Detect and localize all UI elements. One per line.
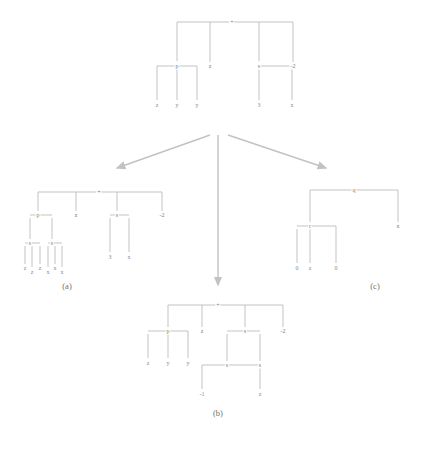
tree-a-node-s: s bbox=[115, 212, 119, 219]
tree-a-node-p: p bbox=[36, 212, 41, 219]
source-leaf: y bbox=[176, 102, 179, 109]
caption-c: (c) bbox=[370, 281, 379, 291]
tree-b-leaf: y bbox=[167, 360, 170, 367]
tree-c-edges bbox=[297, 190, 398, 263]
tree-c-leaf: 0 bbox=[296, 265, 299, 272]
source-node-p: p bbox=[175, 63, 180, 70]
tree-b-node-s-inner-left: s bbox=[225, 362, 229, 369]
tree-c-root-node: q bbox=[352, 187, 357, 194]
tree-a-leaf: x bbox=[128, 254, 131, 261]
tree-a-node-s-inner-right: s bbox=[50, 240, 54, 247]
tree-c-node-x: x bbox=[396, 223, 401, 230]
tree-b-node-const: -2 bbox=[280, 328, 287, 335]
tree-a-leaf: 3 bbox=[109, 254, 112, 261]
tree-c-node-r: r bbox=[308, 223, 312, 230]
source-leaf: 3 bbox=[258, 102, 261, 109]
tree-a-leaf: x bbox=[47, 269, 50, 276]
tree-c-leaf: z bbox=[309, 265, 312, 272]
tree-a-node-s-inner-left: s bbox=[28, 240, 32, 247]
tree-a-leaf: z bbox=[24, 265, 27, 272]
tree-c-leaf: 0 bbox=[335, 265, 338, 272]
source-node-s: s bbox=[257, 63, 261, 70]
tree-a-leaf: x bbox=[61, 269, 64, 276]
tree-a-node-z: z bbox=[74, 212, 79, 219]
source-node-z: z bbox=[208, 63, 213, 70]
arrow-left-line bbox=[117, 135, 210, 168]
tree-b-leaf: -1 bbox=[200, 391, 205, 398]
source-leaf: y bbox=[196, 102, 199, 109]
source-leaf: z bbox=[156, 102, 159, 109]
caption-b: (b) bbox=[213, 408, 223, 418]
tree-lines-layer bbox=[0, 0, 433, 449]
figure-canvas: + p z s -2 z y y 3 x + p z s -2 s s z z … bbox=[0, 0, 433, 449]
tree-a-edges bbox=[25, 192, 162, 267]
tree-b-node-z: z bbox=[200, 328, 205, 335]
tree-a-leaf: x bbox=[54, 265, 57, 272]
tree-b-leaf: z bbox=[259, 391, 262, 398]
source-node-const: -2 bbox=[290, 63, 297, 70]
tree-b-node-s: s bbox=[243, 328, 247, 335]
tree-a-node-const: -2 bbox=[159, 212, 166, 219]
tree-b-edges bbox=[148, 305, 283, 389]
transition-arrows bbox=[117, 135, 326, 285]
tree-a-leaf: z bbox=[31, 269, 34, 276]
arrow-right-line bbox=[228, 135, 326, 168]
caption-a: (a) bbox=[62, 281, 71, 291]
source-root-node: + bbox=[229, 19, 234, 26]
source-leaf: x bbox=[291, 102, 294, 109]
tree-b-leaf: z bbox=[147, 360, 150, 367]
tree-a-root-node: + bbox=[96, 189, 101, 196]
tree-b-root-node: + bbox=[215, 302, 220, 309]
tree-b-node-s-inner-right: s bbox=[258, 362, 262, 369]
tree-a-leaf: z bbox=[39, 265, 42, 272]
tree-b-node-p: p bbox=[166, 328, 171, 335]
source-tree-edges bbox=[157, 22, 293, 100]
tree-b-leaf: y bbox=[187, 360, 190, 367]
